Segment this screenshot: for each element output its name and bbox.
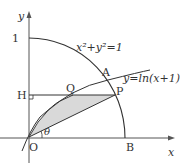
point-Q-label: Q — [66, 82, 75, 95]
theta-arc — [41, 131, 42, 138]
theta-label: θ — [44, 126, 50, 137]
point-A-label: A — [101, 66, 111, 79]
point-B-label: B — [126, 141, 134, 154]
y-axis-label: y — [17, 10, 25, 23]
one-label: 1 — [12, 32, 19, 45]
point-O-label: O — [29, 141, 38, 154]
x-axis-arrow-icon — [168, 136, 175, 141]
curve-equation: y=ln(x+1) — [122, 72, 180, 85]
point-P-label: P — [116, 85, 124, 98]
x-axis-label: x — [168, 146, 175, 159]
y-axis-arrow-icon — [27, 11, 32, 18]
right-angle-mark-icon — [29, 95, 33, 99]
diagram: y x 1 x²+y²=1 y=ln(x+1) A B H O P Q θ — [0, 0, 192, 163]
point-H-label: H — [17, 89, 27, 102]
circle-equation: x²+y²=1 — [76, 41, 123, 54]
